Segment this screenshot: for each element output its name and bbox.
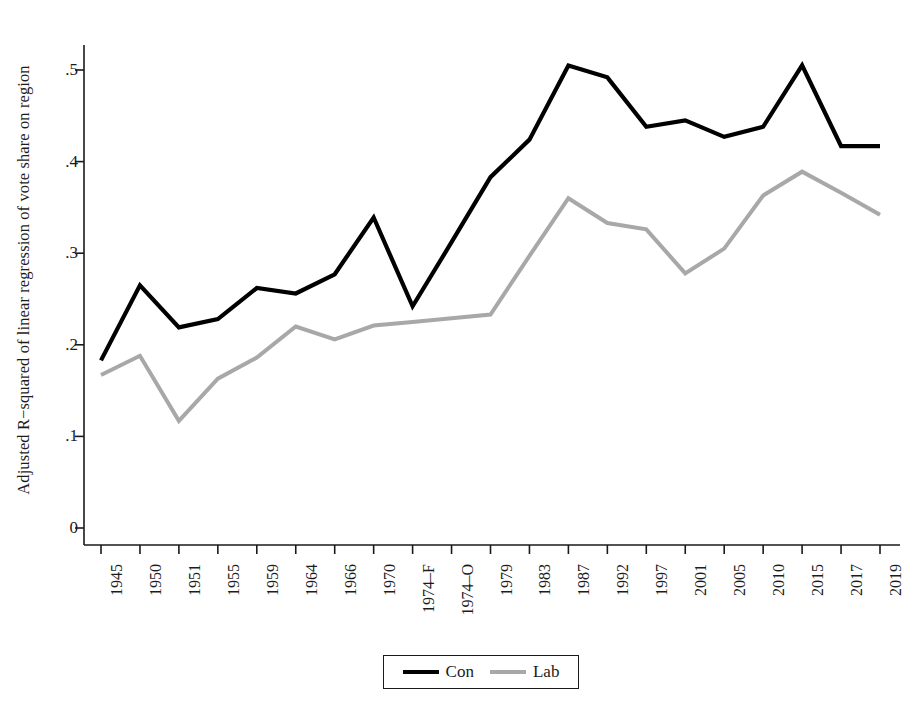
legend-item-lab[interactable]: Lab — [482, 662, 567, 682]
x-axis-tick-label: 1966 — [342, 564, 360, 596]
series-line-lab — [101, 172, 880, 421]
x-axis-tick-label: 1992 — [614, 564, 632, 596]
legend-label-con: Con — [446, 662, 474, 682]
x-axis-tick-label: 1970 — [381, 564, 399, 596]
x-axis-tick-label: 2010 — [770, 564, 788, 596]
chart-figure: Adjusted R−squared of linear regression … — [0, 0, 916, 714]
x-axis-tick-label: 1945 — [108, 564, 126, 596]
x-axis-tick-label: 1983 — [536, 564, 554, 596]
x-axis-tick-label: 2001 — [692, 564, 710, 596]
x-axis-tick-label: 1979 — [498, 564, 516, 596]
x-axis-tick-label: 1974–O — [459, 564, 477, 616]
legend-swatch-lab — [490, 670, 526, 675]
plot-area — [0, 0, 916, 560]
x-axis-tick-label: 1959 — [264, 564, 282, 596]
legend-item-con[interactable]: Con — [395, 662, 482, 682]
legend-label-lab: Lab — [533, 662, 559, 682]
x-axis-tick-label: 2019 — [887, 564, 905, 596]
x-axis-tick-label: 2015 — [809, 564, 827, 596]
x-axis-tick-label: 1951 — [186, 564, 204, 596]
legend-swatch-con — [403, 670, 439, 675]
x-axis-tick-label: 2017 — [848, 564, 866, 596]
x-axis-tick-label: 1964 — [303, 564, 321, 596]
x-axis-tick-label: 2005 — [731, 564, 749, 596]
x-axis-tick-labels: 194519501951195519591964196619701974–F19… — [0, 556, 916, 666]
x-axis-tick-label: 1955 — [225, 564, 243, 596]
x-axis-tick-label: 1997 — [653, 564, 671, 596]
x-axis-tick-label: 1987 — [575, 564, 593, 596]
x-axis-tick-label: 1950 — [147, 564, 165, 596]
legend: Con Lab — [383, 655, 579, 689]
x-axis-tick-label: 1974–F — [420, 564, 438, 613]
